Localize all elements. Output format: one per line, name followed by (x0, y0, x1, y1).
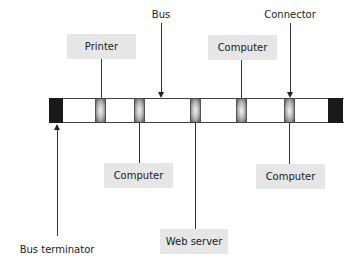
computer-top-drop-line (241, 60, 242, 99)
node-computer-top: Computer (208, 35, 277, 60)
web-server-drop-line (195, 122, 196, 229)
node-computer-bottom-left: Computer (104, 163, 173, 188)
connector-annotation-label: Connector (264, 9, 316, 21)
bus-annotation-line (161, 23, 162, 92)
connector-2 (134, 99, 145, 122)
node-printer-label: Printer (85, 41, 118, 52)
connector-3 (190, 99, 201, 122)
node-web-server-label: Web server (166, 236, 223, 247)
node-computer-bottom-left-label: Computer (114, 170, 164, 181)
bus-terminator-right (328, 98, 343, 123)
bus-annotation-label: Bus (152, 9, 170, 21)
computer-bottom-right-drop-line (289, 122, 290, 164)
printer-drop-line (101, 59, 102, 99)
connector-5 (284, 99, 295, 122)
node-printer: Printer (67, 34, 136, 59)
node-web-server: Web server (160, 229, 228, 254)
connector-annotation-line (290, 23, 291, 92)
computer-bottom-left-drop-line (139, 122, 140, 163)
node-computer-top-label: Computer (218, 42, 268, 53)
bus-terminator-annotation-label: Bus terminator (20, 244, 95, 256)
bus-terminator-annotation-line (57, 130, 58, 236)
node-computer-bottom-right: Computer (256, 164, 325, 189)
connector-4 (236, 99, 247, 122)
node-computer-bottom-right-label: Computer (266, 171, 316, 182)
connector-1 (95, 99, 106, 122)
bus-terminator-left (49, 98, 63, 123)
